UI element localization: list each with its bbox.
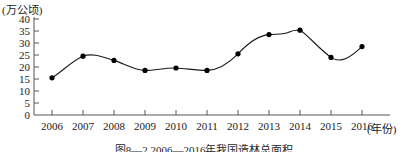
data-point bbox=[204, 68, 209, 73]
chart-figure: (万公顷) 40 35 30 25 20 15 10 5 0 bbox=[0, 0, 408, 152]
x-tick-label: 2012 bbox=[227, 120, 249, 132]
data-point-markers bbox=[49, 28, 364, 81]
x-tick-label: 2007 bbox=[72, 120, 94, 132]
x-tick-label: 2014 bbox=[289, 120, 311, 132]
data-point bbox=[173, 65, 178, 70]
data-point bbox=[80, 54, 85, 59]
data-point bbox=[328, 55, 333, 60]
y-tick-label: 15 bbox=[12, 73, 30, 85]
data-point bbox=[297, 28, 302, 33]
x-tick-label: 2009 bbox=[134, 120, 156, 132]
y-tick-label: 0 bbox=[12, 109, 30, 121]
data-point bbox=[266, 32, 271, 37]
figure-caption: 图8—2 2006—2016年我国造林总面积 bbox=[115, 141, 294, 152]
data-point bbox=[142, 68, 147, 73]
y-tick-label: 25 bbox=[12, 49, 30, 61]
data-point bbox=[235, 51, 240, 56]
axes bbox=[34, 17, 390, 115]
y-tick-label: 20 bbox=[12, 61, 30, 73]
x-tick-label: 2015 bbox=[320, 120, 342, 132]
x-tick-label: 2008 bbox=[103, 120, 125, 132]
x-tick-label: 2006 bbox=[41, 120, 63, 132]
y-axis-ticks bbox=[34, 19, 39, 103]
x-tick-label: 2013 bbox=[258, 120, 280, 132]
y-tick-label: 35 bbox=[12, 25, 30, 37]
x-axis-ticks bbox=[52, 110, 362, 115]
x-tick-label: 2011 bbox=[196, 120, 218, 132]
y-tick-label: 30 bbox=[12, 37, 30, 49]
data-point bbox=[111, 58, 116, 63]
y-tick-label: 40 bbox=[12, 13, 30, 25]
x-tick-label: 2010 bbox=[165, 120, 187, 132]
data-point bbox=[359, 44, 364, 49]
y-tick-label: 5 bbox=[12, 97, 30, 109]
x-axis-unit-label: (年份) bbox=[367, 120, 396, 136]
y-tick-label-group: 40 35 30 25 20 15 10 5 0 bbox=[10, 0, 30, 152]
data-point bbox=[49, 75, 54, 80]
y-tick-label: 10 bbox=[12, 85, 30, 97]
